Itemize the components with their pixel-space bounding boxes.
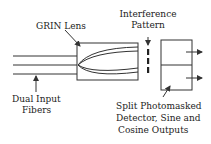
interference-label-line1: Interference bbox=[118, 9, 178, 19]
ray-path bbox=[78, 65, 138, 70]
grin-pointer-arrow bbox=[65, 30, 80, 46]
ray-path bbox=[78, 51, 138, 65]
detector-label-line2: Detector, Sine and bbox=[116, 113, 201, 123]
ray-path bbox=[78, 47, 138, 65]
detector-label-line1: Split Photomasked bbox=[116, 101, 202, 111]
detector-pointer-arrow bbox=[163, 86, 170, 97]
interference-fringe bbox=[147, 49, 149, 55]
grin-lens-label: GRIN Lens bbox=[36, 21, 86, 31]
interference-fringe bbox=[147, 67, 149, 73]
interference-label-line2: Pattern bbox=[118, 20, 178, 30]
fibers-label-line1: Dual Input bbox=[12, 94, 61, 104]
detector-label-line3: Cosine Outputs bbox=[118, 125, 188, 135]
fibers-label-line2: Fibers bbox=[22, 105, 51, 115]
grin-lens-box bbox=[77, 43, 138, 80]
interference-fringe bbox=[147, 58, 149, 64]
